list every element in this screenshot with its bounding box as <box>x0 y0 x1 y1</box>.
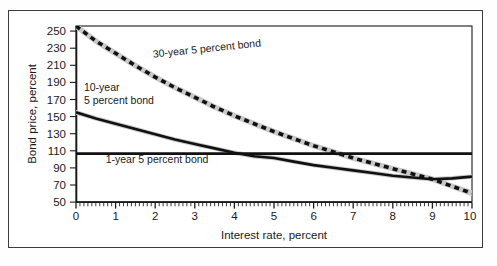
y-axis-ticks: 250 230 210 190 170 150 130 110 90 70 50 <box>47 25 76 208</box>
x-tick-label-7: 7 <box>350 210 356 222</box>
y-tick-label-190: 190 <box>47 76 66 88</box>
y-tick-label-230: 230 <box>47 42 66 54</box>
annotation-10-year-bond-line1: 10-year <box>84 81 120 93</box>
x-tick-label-8: 8 <box>390 210 396 222</box>
y-tick-label-150: 150 <box>47 111 66 123</box>
y-tick-label-170: 170 <box>47 94 66 106</box>
y-tick-label-250: 250 <box>47 25 66 37</box>
y-tick-label-90: 90 <box>53 162 66 174</box>
y-tick-label-70: 70 <box>53 179 66 191</box>
x-tick-label-4: 4 <box>231 210 238 222</box>
x-axis-tick-labels: 0 1 2 3 4 5 6 7 8 9 10 <box>73 210 477 222</box>
x-axis-minor-ticks <box>76 203 472 209</box>
y-tick-label-50: 50 <box>53 196 66 208</box>
y-axis-title: Bond price, percent <box>26 63 38 164</box>
y-tick-label-110: 110 <box>48 145 66 157</box>
y-tick-label-130: 130 <box>47 128 66 140</box>
x-axis-title: Interest rate, percent <box>221 229 328 241</box>
x-tick-label-0: 0 <box>73 210 79 222</box>
x-tick-label-10: 10 <box>464 210 477 222</box>
x-tick-label-9: 9 <box>429 210 435 222</box>
bond-price-interest-rate-chart: 250 230 210 190 170 150 130 110 90 70 50 <box>0 0 497 266</box>
annotation-1-year-bond: 1-year 5 percent bond <box>106 153 209 165</box>
x-tick-label-6: 6 <box>310 210 316 222</box>
y-tick-label-210: 210 <box>47 59 66 71</box>
figure-container: 250 230 210 190 170 150 130 110 90 70 50 <box>0 0 497 266</box>
x-tick-label-3: 3 <box>192 210 198 222</box>
x-tick-label-5: 5 <box>271 210 277 222</box>
x-tick-label-1: 1 <box>112 210 118 222</box>
x-tick-label-2: 2 <box>152 210 158 222</box>
annotation-10-year-bond-line2: 5 percent bond <box>84 94 154 106</box>
